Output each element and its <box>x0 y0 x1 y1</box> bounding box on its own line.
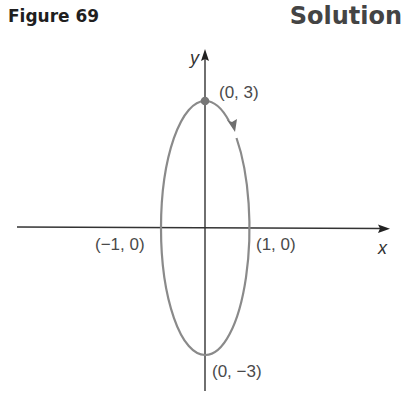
start-point-marker <box>201 97 210 106</box>
point-label-left: (−1, 0) <box>95 235 145 254</box>
ellipse-graph: x y (0, 3) (1, 0) (0, −3) (−1, 0) <box>0 0 410 397</box>
point-label-bottom: (0, −3) <box>212 362 262 381</box>
y-axis-label: y <box>188 48 200 68</box>
clockwise-direction-arrow-icon <box>227 119 237 132</box>
x-axis <box>17 227 382 229</box>
point-label-top: (0, 3) <box>219 83 259 102</box>
x-axis-label: x <box>377 238 388 258</box>
point-label-right: (1, 0) <box>256 235 296 254</box>
